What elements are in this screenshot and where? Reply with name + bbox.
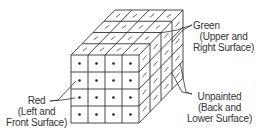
green-label: Green (Upper and Right Surface)	[193, 20, 254, 53]
cube-diagram: Green (Upper and Right Surface) Unpainte…	[0, 0, 257, 136]
red-label-line3: Front Surface)	[6, 117, 67, 128]
red-label: Red (Left and Front Surface)	[6, 95, 67, 128]
red-label-line2: (Left and	[6, 106, 67, 117]
unpainted-label: Unpainted (Back and Lower Surface)	[187, 91, 252, 124]
red-label-title: Red	[6, 95, 67, 106]
unpainted-label-line2: (Back and	[187, 102, 252, 113]
green-label-line3: Right Surface)	[193, 42, 254, 53]
green-label-title: Green	[193, 20, 254, 31]
unpainted-label-title: Unpainted	[187, 91, 252, 102]
unpainted-label-line3: Lower Surface)	[187, 113, 252, 124]
green-label-line2: (Upper and	[193, 31, 254, 42]
